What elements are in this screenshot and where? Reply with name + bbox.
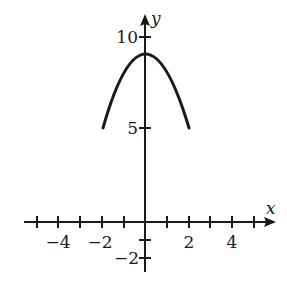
y-axis-label: y bbox=[150, 8, 161, 28]
x-tick-label: 2 bbox=[184, 232, 195, 252]
x-axis-label: x bbox=[266, 198, 276, 218]
y-tick-label: 5 bbox=[127, 118, 138, 138]
y-tick-label: −2 bbox=[114, 248, 139, 268]
y-tick-label: 10 bbox=[116, 27, 138, 47]
x-tick-label: 4 bbox=[227, 232, 238, 252]
graph: −4 −2 2 4 10 5 −2 x y bbox=[0, 0, 287, 294]
x-tick-label: −4 bbox=[45, 232, 70, 252]
x-tick-label: −2 bbox=[87, 232, 112, 252]
